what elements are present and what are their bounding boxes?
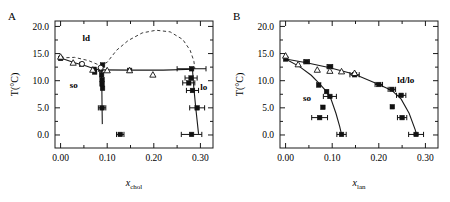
- region-label: ld: [82, 33, 90, 43]
- data-point-filled-square: [190, 88, 195, 93]
- y-tick-label: 0.0: [37, 130, 49, 140]
- data-point-filled-square: [390, 87, 395, 92]
- data-point-filled-square: [186, 81, 191, 86]
- y-tick-label: 10.0: [257, 76, 274, 86]
- y-tick-label: 20.0: [257, 22, 274, 32]
- x-axis-title: xlan: [351, 177, 366, 191]
- data-point-filled-square: [390, 104, 395, 109]
- curve-three-phase-line: [101, 69, 194, 70]
- panel-b-plot: 0.000.100.200.300.05.010.015.020.0xlanT(…: [225, 0, 450, 202]
- data-point-filled-square: [100, 77, 105, 82]
- y-tick-label: 5.0: [262, 103, 274, 113]
- y-tick-label: 10.0: [32, 76, 49, 86]
- x-tick-label: 0.20: [370, 153, 387, 163]
- data-point-filled-square: [100, 86, 105, 91]
- x-tick-label: 0.30: [417, 153, 434, 163]
- y-tick-label: 0.0: [262, 130, 274, 140]
- data-point-filled-square: [328, 94, 333, 99]
- x-axis-title: xchol: [125, 177, 143, 191]
- data-point-filled-square: [339, 132, 344, 137]
- x-tick-label: 0.00: [52, 153, 69, 163]
- data-point-filled-square: [304, 59, 309, 64]
- y-axis-title: T(°C): [234, 73, 246, 96]
- panel-a-letter: A: [8, 10, 16, 22]
- data-point-filled-square: [321, 105, 326, 110]
- y-tick-label: 15.0: [32, 49, 49, 59]
- region-label: lo: [200, 82, 208, 92]
- data-point-open-circle: [98, 65, 103, 70]
- region-label: so: [70, 80, 79, 90]
- y-tick-label: 5.0: [37, 103, 49, 113]
- panel-b: B 0.000.100.200.300.05.010.015.020.0xlan…: [225, 0, 450, 202]
- panel-a: A 0.000.100.200.300.05.010.015.020.0xcho…: [0, 0, 225, 202]
- data-point-filled-square: [189, 76, 194, 81]
- y-tick-label: 20.0: [32, 22, 49, 32]
- x-tick-label: 0.00: [277, 153, 294, 163]
- data-point-filled-square: [414, 132, 419, 137]
- data-point-filled-square: [189, 66, 194, 71]
- data-point-open-circle: [80, 61, 85, 66]
- region-label: so: [303, 93, 312, 103]
- x-tick-label: 0.20: [145, 153, 162, 163]
- panel-b-letter: B: [233, 10, 241, 22]
- y-tick-label: 15.0: [257, 49, 274, 59]
- data-point-filled-square: [377, 82, 382, 87]
- region-label: ld/lo: [397, 75, 415, 85]
- phase-diagram-figure: A 0.000.100.200.300.05.010.015.020.0xcho…: [0, 0, 450, 202]
- data-point-filled-square: [400, 115, 405, 120]
- data-point-filled-square: [324, 89, 329, 94]
- data-point-filled-square: [118, 132, 123, 137]
- data-point-filled-square: [317, 115, 322, 120]
- data-point-filled-square: [100, 82, 105, 87]
- x-tick-label: 0.30: [192, 153, 209, 163]
- data-point-filled-square: [100, 106, 105, 111]
- x-tick-label: 0.10: [324, 153, 341, 163]
- data-point-filled-square: [189, 132, 194, 137]
- y-axis-title: T(°C): [9, 73, 21, 96]
- data-point-filled-square: [399, 93, 404, 98]
- data-point-open-triangle: [314, 67, 320, 73]
- panel-a-plot: 0.000.100.200.300.05.010.015.020.0xcholT…: [0, 0, 225, 202]
- data-point-filled-square: [316, 83, 321, 88]
- x-tick-label: 0.10: [99, 153, 116, 163]
- data-point-open-triangle: [150, 72, 156, 78]
- data-point-filled-square: [195, 106, 200, 111]
- data-point-filled-square: [99, 72, 104, 77]
